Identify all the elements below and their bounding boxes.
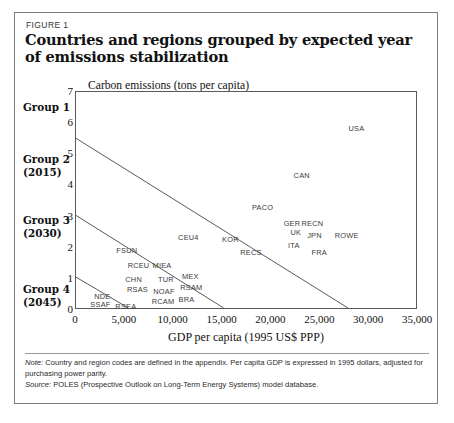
group-label-2-name: Group 2 xyxy=(23,153,81,166)
data-point-paco: PACO xyxy=(252,203,273,212)
group-label-4-year: (2045) xyxy=(23,296,81,309)
footnotes: Note: Country and region codes are defin… xyxy=(25,358,429,392)
data-point-bra: BRA xyxy=(179,295,195,304)
footnote-divider xyxy=(25,353,429,354)
data-point-ceu4: CEU4 xyxy=(178,233,199,242)
group-label-2: Group 2 (2015) xyxy=(23,153,81,179)
x-axis-title: GDP per capita (1995 US$ PPP) xyxy=(75,330,417,345)
data-point-ssaf: SSAF xyxy=(90,300,110,309)
data-point-miea: MIEA xyxy=(153,260,172,269)
data-point-tur: TUR xyxy=(158,275,174,284)
data-point-recn: RECN xyxy=(302,219,324,228)
y-axis-tick-labels: 01234567 xyxy=(51,91,73,309)
source-row: Source: POLES (Prospective Outlook on Lo… xyxy=(25,380,429,391)
y-tick-6: 6 xyxy=(51,116,73,128)
group-label-2-year: (2015) xyxy=(23,166,81,179)
chart-container: Carbon emissions (tons per capita) 01234… xyxy=(15,13,439,405)
group-label-4-name: Group 4 xyxy=(23,283,81,296)
y-tick-7: 7 xyxy=(51,85,73,97)
note-text: Country and region codes are defined in … xyxy=(25,358,423,378)
data-point-usa: USA xyxy=(349,123,365,132)
data-point-jpn: JPN xyxy=(307,230,322,239)
data-point-kor: KOR xyxy=(222,234,239,243)
y-tick-4: 4 xyxy=(51,178,73,190)
source-text: POLES (Prospective Outlook on Long-Term … xyxy=(51,380,318,389)
data-point-mex: MEX xyxy=(182,272,199,281)
group-label-3-name: Group 3 xyxy=(23,214,81,227)
group-label-1-name: Group 1 xyxy=(23,101,81,114)
data-point-rsea: RSEA xyxy=(115,301,136,310)
plot-area: USACANPACOGERRECNUKJPNROWEITAFRAKORRECSC… xyxy=(75,91,417,309)
x-tick-25000: 25,000 xyxy=(304,313,334,325)
data-point-rcam: RCAM xyxy=(152,296,175,305)
data-point-noaf: NOAF xyxy=(153,286,174,295)
source-lead: Source: xyxy=(25,380,51,389)
x-tick-5000: 5,000 xyxy=(111,313,136,325)
x-tick-35000: 35,000 xyxy=(402,313,432,325)
data-point-fra: FRA xyxy=(312,248,327,257)
figure-panel: FIGURE 1 Countries and regions grouped b… xyxy=(14,12,438,404)
x-tick-10000: 10,000 xyxy=(158,313,188,325)
group-label-3-year: (2030) xyxy=(23,227,81,240)
x-tick-0: 0 xyxy=(72,313,78,325)
data-point-fsun: FSUN xyxy=(116,245,137,254)
group-label-4: Group 4 (2045) xyxy=(23,283,81,309)
data-point-uk: UK xyxy=(291,227,302,236)
data-point-rsas: RSAS xyxy=(127,285,148,294)
group-label-3: Group 3 (2030) xyxy=(23,214,81,240)
data-point-rsam: RSAM xyxy=(180,282,202,291)
data-point-rceu: RCEU xyxy=(128,260,150,269)
data-point-recs: RECS xyxy=(240,248,261,257)
data-point-ita: ITA xyxy=(288,240,300,249)
x-axis-tick-labels: 05,00010,00015,00020,00025,00030,00035,0… xyxy=(75,313,417,329)
note-row: Note: Country and region codes are defin… xyxy=(25,358,429,379)
note-lead: Note: xyxy=(25,358,43,367)
data-point-can: CAN xyxy=(294,170,310,179)
group-label-1: Group 1 xyxy=(23,101,81,114)
data-point-chn: CHN xyxy=(125,275,142,284)
x-tick-20000: 20,000 xyxy=(255,313,285,325)
x-tick-30000: 30,000 xyxy=(353,313,383,325)
data-point-rowe: ROWE xyxy=(335,230,359,239)
y-tick-2: 2 xyxy=(51,241,73,253)
x-tick-15000: 15,000 xyxy=(206,313,236,325)
